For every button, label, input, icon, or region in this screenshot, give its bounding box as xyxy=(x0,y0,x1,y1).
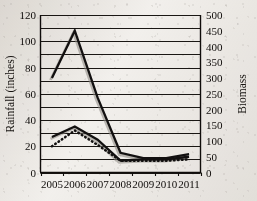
right-axis-tick-label: 100 xyxy=(206,135,223,147)
right-axis-tick-label: 400 xyxy=(206,41,223,53)
left-axis-tick-labels: 020406080100120 xyxy=(20,9,37,179)
right-axis-title: Biomass xyxy=(236,74,248,114)
right-axis-tick-label: 500 xyxy=(206,9,223,21)
rainfall-peak-series-scan-ghost xyxy=(51,33,188,160)
right-axis-tick-label: 200 xyxy=(206,104,223,116)
x-axis-tick-label: 2008 xyxy=(110,178,133,190)
right-axis-tick-labels: 050100150200250300350400450500 xyxy=(206,9,223,179)
dual-axis-line-chart: 020406080100120 050100150200250300350400… xyxy=(0,0,257,201)
right-axis-tick-label: 50 xyxy=(206,151,218,163)
right-axis-tick-label: 350 xyxy=(206,56,223,68)
right-axis-tick-label: 250 xyxy=(206,88,223,100)
left-axis-tick-label: 100 xyxy=(20,35,37,47)
left-axis-tick-label: 60 xyxy=(25,88,37,100)
gridline-group xyxy=(41,16,201,174)
right-axis-tick-label: 0 xyxy=(206,167,212,179)
x-axis-tick-label: 2007 xyxy=(87,178,110,190)
left-axis-title: Rainfall (inches) xyxy=(4,55,17,132)
left-axis-tick-label: 40 xyxy=(25,114,37,126)
right-axis-tick-label: 150 xyxy=(206,119,223,131)
x-axis-tick-label: 2009 xyxy=(132,178,155,190)
x-axis-tick-labels: 2005200620072008200920102011 xyxy=(41,178,200,190)
left-axis-tick-label: 20 xyxy=(25,140,37,152)
right-axis-tick-label: 450 xyxy=(206,25,223,37)
left-axis-tick-label: 0 xyxy=(31,167,37,179)
right-axis-tick-label: 300 xyxy=(206,72,223,84)
left-axis-tick-label: 80 xyxy=(25,62,37,74)
left-axis-tick-label: 120 xyxy=(20,9,37,21)
x-axis-tick-label: 2011 xyxy=(178,178,200,190)
data-series-group xyxy=(51,31,190,163)
x-axis-tick-label: 2006 xyxy=(64,178,87,190)
x-axis-tick-label: 2010 xyxy=(155,178,178,190)
x-axis-tick-label: 2005 xyxy=(41,178,64,190)
